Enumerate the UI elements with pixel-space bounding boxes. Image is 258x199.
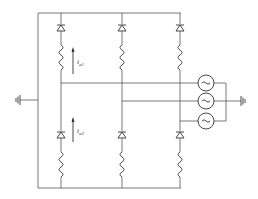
- circuit-diagram: ia1 ia2: [0, 0, 258, 199]
- ac-source-icon: [198, 75, 214, 91]
- diode-icon: [176, 132, 184, 138]
- inductor-icon: [178, 45, 182, 70]
- bridge-arm-3: [176, 13, 184, 188]
- inductor-icon: [120, 152, 124, 177]
- current-label-upper: ia1: [77, 58, 84, 67]
- diode-icon: [118, 132, 126, 138]
- ac-source-icon: [198, 93, 214, 109]
- current-arrow-lower: [72, 117, 75, 142]
- current-label-lower: ia2: [77, 127, 84, 136]
- diode-icon: [57, 132, 65, 138]
- diode-icon: [57, 25, 65, 31]
- inductor-icon: [178, 152, 182, 177]
- diode-icon: [118, 25, 126, 31]
- inductor-icon: [59, 45, 63, 70]
- diode-icon: [176, 25, 184, 31]
- bridge-arm-2: [118, 13, 126, 188]
- inductor-icon: [120, 45, 124, 70]
- ground-right-icon: [226, 96, 245, 106]
- bridge-arm-1: [57, 13, 65, 188]
- current-arrow-upper: [72, 47, 75, 74]
- inductor-icon: [59, 152, 63, 177]
- ground-left-icon: [16, 95, 38, 105]
- ac-source-icon: [198, 113, 214, 129]
